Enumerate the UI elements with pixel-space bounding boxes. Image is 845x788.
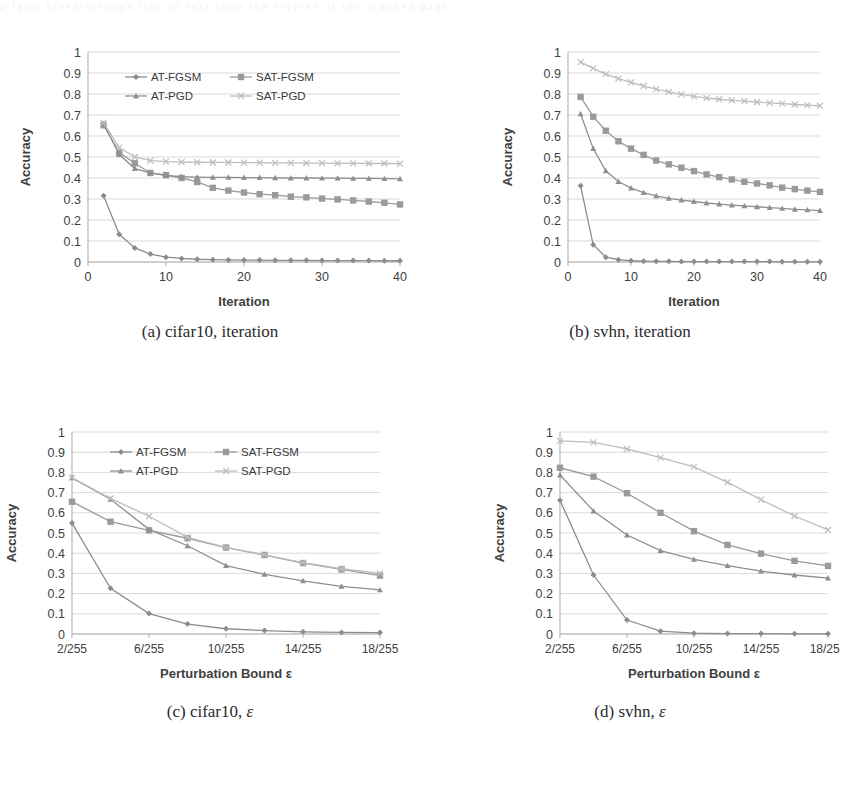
data-point-square-marker bbox=[288, 193, 294, 199]
chart-legend: AT-FGSMSAT-FGSMAT-PGDSAT-PGD bbox=[125, 71, 314, 102]
data-point-cross-marker bbox=[825, 527, 831, 533]
x-tick-label: 20 bbox=[687, 270, 701, 284]
y-tick-label: 0.3 bbox=[48, 567, 65, 581]
series-line-at-pgd bbox=[581, 114, 820, 211]
x-tick-label: 6/255 bbox=[134, 642, 164, 656]
data-point-square-marker bbox=[666, 161, 672, 167]
x-tick-label: 0 bbox=[85, 270, 92, 284]
y-tick-label: 0.6 bbox=[544, 130, 561, 144]
series-line-sat-pgd bbox=[72, 478, 380, 574]
x-tick-label: 2/255 bbox=[545, 642, 575, 656]
y-tick-label: 0.7 bbox=[64, 109, 81, 123]
y-tick-label: 0.8 bbox=[48, 466, 65, 480]
data-point-cross-marker bbox=[792, 513, 798, 519]
data-point-diamond-marker bbox=[725, 631, 731, 637]
caption-b-text: svhn, iteration bbox=[593, 322, 690, 341]
data-point-diamond-marker bbox=[754, 259, 760, 265]
y-tick-label: 0.6 bbox=[48, 506, 65, 520]
data-point-square-marker bbox=[640, 152, 646, 158]
data-point-diamond-marker bbox=[628, 258, 634, 264]
series-line-at-fgsm bbox=[581, 186, 820, 262]
series-line-sat-pgd bbox=[581, 62, 820, 106]
x-tick-label: 0 bbox=[565, 270, 572, 284]
chart-d-plot: 00.10.20.30.40.50.60.70.80.912/2556/2551… bbox=[420, 402, 840, 702]
data-point-diamond-marker bbox=[792, 631, 798, 637]
data-point-square-marker bbox=[210, 185, 216, 191]
y-tick-label: 0.9 bbox=[536, 446, 553, 460]
chart-svg-a: 00.10.20.30.40.50.60.70.80.91010203040It… bbox=[0, 22, 420, 322]
data-point-square-marker bbox=[657, 510, 663, 516]
data-point-cross-marker bbox=[758, 497, 764, 503]
x-tick-label: 10/255 bbox=[676, 642, 713, 656]
data-point-square-marker bbox=[691, 528, 697, 534]
data-point-square-marker bbox=[223, 449, 229, 455]
y-tick-label: 0.2 bbox=[48, 587, 65, 601]
data-point-diamond-marker bbox=[397, 258, 403, 264]
data-point-square-marker bbox=[132, 160, 138, 166]
data-point-square-marker bbox=[615, 138, 621, 144]
data-point-square-marker bbox=[590, 473, 596, 479]
data-point-square-marker bbox=[825, 563, 831, 569]
data-point-square-marker bbox=[817, 189, 823, 195]
data-point-square-marker bbox=[194, 179, 200, 185]
data-point-diamond-marker bbox=[350, 258, 356, 264]
y-tick-label: 0.9 bbox=[48, 446, 65, 460]
data-point-cross-marker bbox=[603, 71, 609, 77]
y-tick-label: 0.5 bbox=[544, 151, 561, 165]
data-point-square-marker bbox=[628, 145, 634, 151]
series-line-at-pgd bbox=[560, 475, 828, 578]
data-point-diamond-marker bbox=[758, 631, 764, 637]
y-tick-label: 0.2 bbox=[544, 214, 561, 228]
data-point-diamond-marker bbox=[817, 259, 823, 265]
y-tick-label: 1 bbox=[58, 426, 65, 440]
data-point-diamond-marker bbox=[101, 193, 107, 199]
y-tick-label: 0.6 bbox=[64, 130, 81, 144]
y-tick-label: 0.4 bbox=[64, 172, 81, 186]
y-tick-label: 0.1 bbox=[536, 607, 553, 621]
data-point-diamond-marker bbox=[653, 258, 659, 264]
data-point-diamond-marker bbox=[729, 259, 735, 265]
caption-d-epsilon: ε bbox=[659, 702, 666, 721]
data-point-diamond-marker bbox=[666, 258, 672, 264]
data-point-square-marker bbox=[758, 550, 764, 556]
data-point-diamond-marker bbox=[716, 259, 722, 265]
chart-panel-c: 00.10.20.30.40.50.60.70.80.912/2556/2551… bbox=[0, 402, 420, 782]
caption-a-text: cifar10, iteration bbox=[165, 322, 278, 341]
y-tick-label: 0.9 bbox=[64, 67, 81, 81]
y-tick-label: 0 bbox=[74, 256, 81, 270]
data-point-square-marker bbox=[303, 194, 309, 200]
data-point-square-marker bbox=[653, 157, 659, 163]
y-tick-label: 0.1 bbox=[544, 235, 561, 249]
legend-label-at-pgd: AT-PGD bbox=[151, 90, 193, 102]
y-axis-title: Accuracy bbox=[500, 127, 515, 186]
y-axis-title: Accuracy bbox=[4, 503, 19, 562]
data-point-diamond-marker bbox=[691, 630, 697, 636]
y-tick-label: 0.8 bbox=[536, 466, 553, 480]
data-point-square-marker bbox=[691, 168, 697, 174]
data-point-square-marker bbox=[766, 182, 772, 188]
chart-panel-d: 00.10.20.30.40.50.60.70.80.912/2556/2551… bbox=[420, 402, 840, 782]
data-point-square-marker bbox=[603, 128, 609, 134]
data-point-triangle-marker bbox=[590, 146, 596, 151]
data-point-square-marker bbox=[238, 74, 244, 80]
legend-label-at-fgsm: AT-FGSM bbox=[151, 71, 201, 83]
x-tick-label: 2/255 bbox=[57, 642, 87, 656]
caption-b-prefix: (b) bbox=[569, 322, 589, 341]
data-point-square-marker bbox=[350, 197, 356, 203]
data-point-square-marker bbox=[804, 187, 810, 193]
data-point-square-marker bbox=[724, 542, 730, 548]
data-point-square-marker bbox=[225, 187, 231, 193]
data-point-square-marker bbox=[792, 186, 798, 192]
y-tick-label: 0.1 bbox=[48, 607, 65, 621]
y-tick-label: 0.2 bbox=[536, 587, 553, 601]
data-point-diamond-marker bbox=[641, 258, 647, 264]
data-point-square-marker bbox=[729, 176, 735, 182]
y-axis-title: Accuracy bbox=[18, 127, 33, 186]
x-tick-label: 10 bbox=[159, 270, 173, 284]
data-point-diamond-marker bbox=[741, 259, 747, 265]
chart-a-plot: 00.10.20.30.40.50.60.70.80.91010203040It… bbox=[0, 22, 420, 322]
data-point-diamond-marker bbox=[185, 621, 191, 627]
data-point-square-marker bbox=[69, 498, 75, 504]
y-tick-label: 0.8 bbox=[544, 88, 561, 102]
legend-label-sat-fgsm: SAT-FGSM bbox=[241, 446, 299, 458]
